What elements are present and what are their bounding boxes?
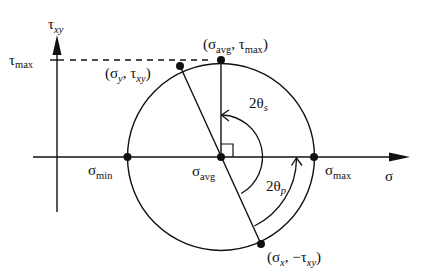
point-sigma-max — [310, 153, 318, 161]
two-theta-s-label: 2θs — [249, 95, 268, 113]
sigma-axis-label: σ — [385, 168, 393, 184]
sigma-max-label: σmax — [325, 162, 352, 181]
two-theta-p-label: 2θp — [266, 178, 286, 196]
two-theta-s-arc — [223, 115, 263, 194]
mohr-circle-diagram: τxy σ τmax σmin σavg σmax (σavg, τmax) (… — [0, 0, 425, 277]
tau-axis-label: τxy — [48, 16, 64, 35]
sigma-avg-label: σavg — [192, 163, 216, 182]
point-sigma-y-tau-xy — [176, 62, 184, 70]
point-sigma-avg-tau-max — [217, 56, 225, 64]
point-sigma-x-neg-tau-xy — [257, 240, 265, 248]
point-label-sigma-y-tau-xy: (σy, τxy) — [105, 65, 151, 84]
sigma-axis-arrow-icon — [389, 153, 410, 162]
point-sigma-avg — [217, 153, 225, 161]
point-label-sigma-avg-tau-max: (σavg, τmax) — [203, 36, 268, 55]
point-sigma-min — [124, 153, 132, 161]
tau-max-label: τmax — [9, 52, 34, 70]
sigma-min-label: σmin — [88, 162, 113, 181]
point-label-sigma-x-neg-tau-xy: (σx, −τxy) — [267, 249, 321, 268]
tau-axis-arrow-icon — [53, 35, 62, 55]
